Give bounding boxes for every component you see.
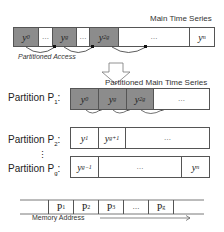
partitioned-access-arrows [0,0,224,232]
partitioned-access-label: Partitioned Access [18,53,76,60]
partition-p1-label: Partition P1: [8,92,60,105]
cell-ellipsis: … [153,88,210,110]
cell-y2g: y2g [126,88,154,110]
partitioned-series-title: Partitioned Main Time Series [105,78,207,87]
cell-ellipsis: … [98,156,182,178]
cell-yg1: yg+1 [98,127,126,149]
cell-yn: yn [181,156,210,178]
memory-address-label: Memory Address [32,214,85,221]
memory-cell-end [173,200,174,214]
vertical-ellipsis: ⋮ [38,150,47,160]
memory-cell-pg: Pg [148,200,173,214]
memory-cell-p1: P1 [48,200,73,214]
memory-cell-ellipsis: … [123,200,148,214]
cell-ellipsis: … [125,127,210,149]
cell-y1: y1 [70,127,99,149]
memory-cell-p3: P3 [98,200,123,214]
partition-p2-label: Partition P2: [8,134,60,147]
cell-y0: y0 [70,88,99,110]
partition-pg-label: Partition Pg: [8,163,60,176]
cell-yg: yg [98,88,127,110]
cell-yg-1: yg−1 [70,156,99,178]
memory-cell-p2: P2 [73,200,98,214]
